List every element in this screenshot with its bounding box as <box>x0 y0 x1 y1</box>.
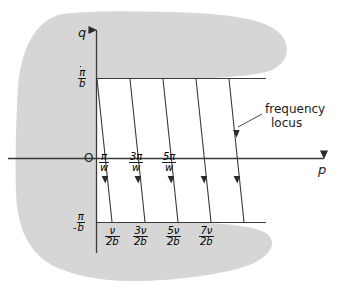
x-tick-5nu-over-2b-denominator: 2b <box>166 237 181 247</box>
frequency-locus-callout-line1: frequency <box>265 103 325 117</box>
x-tick-nu-over-2b-denominator: 2b <box>105 237 120 247</box>
y-tick-pi-over-b-mark <box>80 66 81 67</box>
axis-p-label: p <box>318 163 326 176</box>
x-tick-7nu-over-2b-denominator: 2b <box>199 237 214 247</box>
axis-q-label: q <box>78 26 86 39</box>
x-tick-3nu-over-2b-denominator: 2b <box>133 237 148 247</box>
frequency-locus-diagram: q p O π b - π b π w 3π w 5π w <box>0 0 341 300</box>
x-tick-pi-over-w: π w <box>99 152 109 175</box>
y-tick-pi-over-b: π b <box>78 68 86 91</box>
frequency-locus-callout-line2: locus <box>271 117 325 131</box>
x-tick-5nu-over-2b: 5ν 2b <box>166 226 181 249</box>
pass-band-clear-area <box>97 78 269 222</box>
frequency-locus-callout: frequency locus <box>265 103 325 131</box>
x-tick-5pi-over-w: 5π w <box>162 152 176 175</box>
x-tick-pi-over-w-denominator: w <box>99 163 109 173</box>
y-tick-neg-pi-over-b-denominator: b <box>77 223 85 233</box>
y-tick-pi-over-b-denominator: b <box>78 79 86 89</box>
diagram-canvas <box>0 0 341 300</box>
origin-label: O <box>84 152 93 164</box>
x-tick-7nu-over-2b: 7ν 2b <box>199 226 214 249</box>
x-tick-3pi-over-w-denominator: w <box>129 163 143 173</box>
x-tick-3nu-over-2b: 3ν 2b <box>133 226 148 249</box>
x-tick-3pi-over-w: 3π w <box>129 152 143 175</box>
x-tick-nu-over-2b: ν 2b <box>105 226 120 249</box>
y-tick-neg-pi-over-b-sign: - <box>73 222 77 233</box>
y-tick-neg-pi-over-b: - π b <box>73 212 85 235</box>
x-tick-5pi-over-w-denominator: w <box>162 163 176 173</box>
